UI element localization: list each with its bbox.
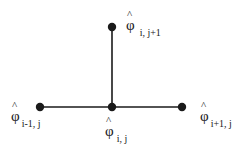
subscript: i+1, j [211, 119, 232, 129]
label-center-node: ^ φ i, j [105, 123, 127, 144]
stencil-diagram: ^ φ i, j+1 ^ φ i-1, j ^ φ i, j ^ φ i+1, … [0, 0, 242, 147]
node-center [108, 103, 116, 111]
label-top-node: ^ φ i, j+1 [126, 17, 161, 38]
phi-hat-symbol: ^ φ [126, 18, 135, 33]
phi-hat-symbol: ^ φ [11, 109, 20, 124]
phi-hat-symbol: ^ φ [200, 109, 209, 124]
subscript: i, j+1 [140, 28, 161, 38]
phi-hat-symbol: ^ φ [105, 124, 114, 139]
label-left-node: ^ φ i-1, j [11, 108, 41, 129]
node-right [178, 103, 186, 111]
label-right-node: ^ φ i+1, j [200, 108, 232, 129]
subscript: i, j [117, 134, 128, 144]
node-top [108, 23, 116, 31]
subscript: i-1, j [22, 119, 41, 129]
